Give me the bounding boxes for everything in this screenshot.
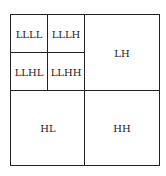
region-hh-label: HH (113, 123, 130, 134)
region-llhh-label: LLHH (51, 67, 82, 78)
region-lllh-label: LLLH (52, 29, 81, 40)
inner-horizontal-divider (10, 52, 84, 53)
region-llhl-label: LLHL (15, 67, 44, 78)
region-llll-label: LLLL (16, 29, 43, 40)
region-hl-label: HL (40, 123, 55, 134)
region-lh-label: LH (114, 48, 129, 59)
center-horizontal-divider (10, 90, 160, 91)
